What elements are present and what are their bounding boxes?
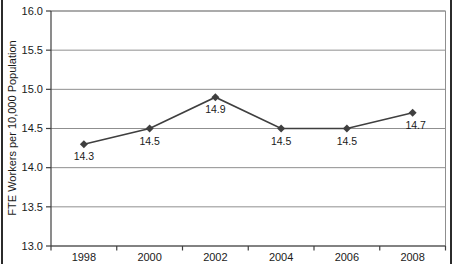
y-tick-label: 15.5 (22, 44, 43, 56)
y-tick-label: 14.5 (22, 122, 43, 134)
data-label: 14.5 (337, 135, 358, 147)
y-tick-label: 13.0 (22, 240, 43, 252)
data-point-marker (409, 109, 417, 117)
chart-figure: FTE Workers per 10,000 Population 16.015… (0, 0, 453, 264)
y-tick-label: 14.0 (22, 161, 43, 173)
x-tick-label: 2004 (269, 251, 293, 263)
y-tick-label: 15.0 (22, 83, 43, 95)
x-tick-label: 1998 (72, 251, 96, 263)
series-line (84, 97, 413, 144)
data-point-marker (211, 93, 219, 101)
plot-area: 16.015.515.014.514.013.513.0199820002002… (0, 0, 453, 264)
x-tick-label: 2000 (137, 251, 161, 263)
data-label: 14.9 (205, 103, 226, 115)
y-tick-label: 13.5 (22, 201, 43, 213)
data-point-marker (146, 125, 154, 133)
data-label: 14.5 (139, 135, 160, 147)
data-label: 14.3 (74, 150, 95, 162)
x-tick-label: 2006 (335, 251, 359, 263)
y-tick-label: 16.0 (22, 5, 43, 17)
data-point-marker (80, 140, 88, 148)
x-tick-label: 2008 (400, 251, 424, 263)
data-point-marker (277, 125, 285, 133)
data-point-marker (343, 125, 351, 133)
x-tick-label: 2002 (203, 251, 227, 263)
data-label: 14.5 (271, 135, 292, 147)
data-label: 14.7 (405, 119, 426, 131)
